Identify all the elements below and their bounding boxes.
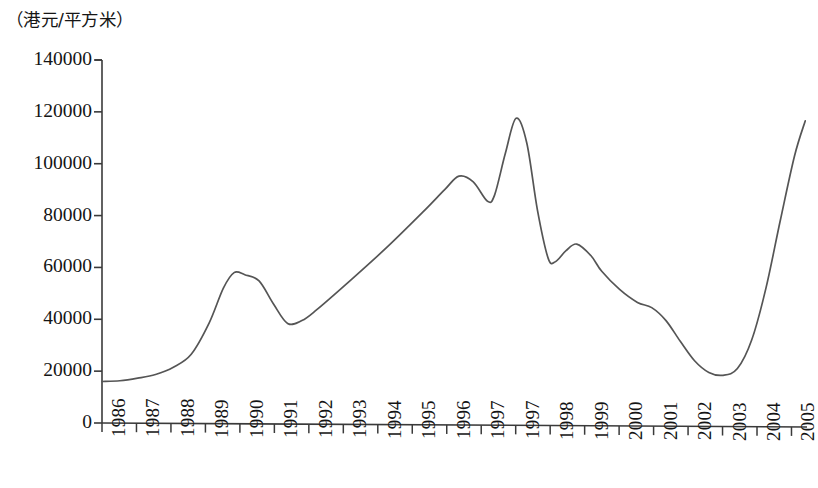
x-axis-tick-label: 1998 (557, 401, 576, 440)
x-axis-tick-label: 1994 (385, 400, 404, 439)
x-axis-tick-label: 1997 (523, 401, 542, 440)
x-axis-tick-label: 1988 (178, 399, 197, 438)
x-axis-tick-label: 1989 (212, 399, 231, 438)
x-axis-tick-label: 1993 (350, 400, 369, 439)
x-axis-tick-label: 1990 (247, 399, 266, 438)
x-axis-tick-label: 1987 (143, 398, 162, 437)
x-axis-tick-label: 2005 (798, 402, 817, 441)
x-axis-tick-label: 1991 (281, 399, 300, 438)
x-axis-tick-label: 1986 (109, 398, 128, 437)
x-axis-tick-label: 2000 (626, 401, 645, 440)
x-axis-tick-label: 1999 (592, 401, 611, 440)
x-axis-tick-label: 1997 (488, 400, 507, 439)
x-axis-tick-label: 2003 (730, 402, 749, 441)
x-axis-tick-label: 2004 (764, 402, 783, 441)
x-axis-tick-label: 1995 (419, 400, 438, 439)
x-axis-tick-label: 1996 (454, 400, 473, 439)
x-axis-tick-label: 2001 (661, 401, 680, 440)
x-axis-tick-label: 1992 (316, 399, 335, 438)
x-axis-tick-label: 2002 (695, 402, 714, 441)
